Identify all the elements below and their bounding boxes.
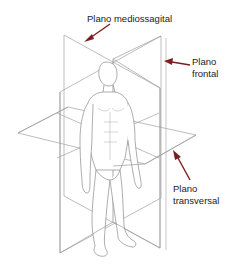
- label-plano-mediossagital: Plano mediossagital: [87, 13, 172, 25]
- human-figure: [80, 62, 141, 256]
- right-leg: [110, 170, 136, 247]
- label-plano-transversal: Plano transversal: [173, 183, 219, 207]
- label-text-line2: frontal: [192, 68, 218, 80]
- head: [99, 62, 117, 86]
- arrow-transversal: [173, 150, 190, 180]
- torso: [86, 92, 130, 170]
- left-leg: [92, 170, 110, 256]
- anatomical-planes-diagram: Plano mediossagital Plano frontal Plano …: [0, 0, 238, 270]
- planes-illustration: [0, 0, 238, 270]
- label-text: Plano mediossagital: [87, 13, 172, 25]
- label-text-line1: Plano: [173, 183, 219, 195]
- label-text-line2: transversal: [173, 195, 219, 207]
- right-arm: [128, 103, 141, 188]
- label-plano-frontal: Plano frontal: [192, 56, 218, 80]
- arrow-frontal: [164, 58, 190, 65]
- arrow-mediossagital: [84, 24, 110, 42]
- left-arm: [80, 103, 93, 193]
- label-text-line1: Plano: [192, 56, 218, 68]
